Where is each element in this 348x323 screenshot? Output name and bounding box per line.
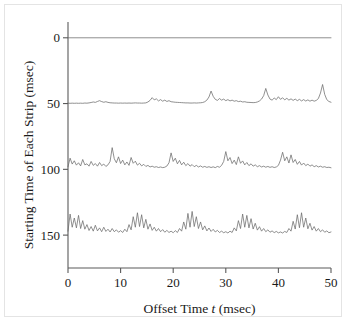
y-tick-label: 150 bbox=[41, 228, 61, 243]
trace-group bbox=[68, 38, 331, 233]
x-axis-title: Offset Time t (msec) bbox=[144, 301, 256, 316]
x-axis-ticks bbox=[68, 268, 331, 273]
trace-strip-50msec bbox=[68, 84, 331, 103]
x-tick-label: 20 bbox=[167, 275, 180, 290]
y-tick-label: 100 bbox=[41, 162, 61, 177]
autocorrelation-plot: 050100150 01020304050 Offset Time t (mse… bbox=[0, 0, 348, 323]
trace-strip-150msec bbox=[68, 211, 331, 233]
y-tick-label: 50 bbox=[47, 96, 60, 111]
x-tick-label: 10 bbox=[114, 275, 127, 290]
x-tick-label: 50 bbox=[325, 275, 338, 290]
figure-root: 050100150 01020304050 Offset Time t (mse… bbox=[0, 0, 348, 323]
trace-strip-100msec bbox=[68, 148, 331, 168]
y-axis-title: Starting Time of Each Strip (msec) bbox=[21, 61, 36, 250]
y-axis-ticks bbox=[63, 38, 68, 235]
x-tick-label: 40 bbox=[272, 275, 285, 290]
x-tick-label: 0 bbox=[65, 275, 72, 290]
x-tick-label: 30 bbox=[219, 275, 232, 290]
y-tick-label: 0 bbox=[54, 30, 61, 45]
y-axis-tick-labels: 050100150 bbox=[41, 30, 61, 242]
x-axis-tick-labels: 01020304050 bbox=[65, 275, 338, 290]
